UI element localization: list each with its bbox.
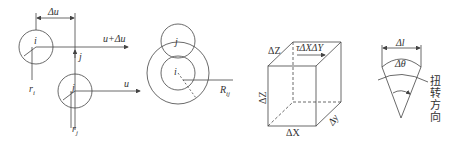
- particle-j-upper-label: j: [173, 36, 178, 47]
- diagram-canvas: Δu u+Δu u i j j ri rj j i Rij: [0, 0, 452, 146]
- radius-dashed: [178, 73, 196, 98]
- shear-stress-label: τΔXΔY: [296, 42, 324, 53]
- inner-angle-arc: [393, 91, 410, 94]
- bottom-edge-label: ΔX: [286, 127, 300, 138]
- cube-hidden-edge: [268, 102, 293, 126]
- direction-char-1: 扭: [430, 74, 441, 88]
- r-i-label: ri: [29, 83, 35, 97]
- particle-i-center-label: i: [174, 66, 177, 77]
- depth-edge-label: Δy: [325, 112, 341, 128]
- shear-cube-labels: ΔZ τΔXΔY ΔZ ΔX Δy: [257, 42, 341, 138]
- particle-shear-labels: Δu u+Δu u i j j ri rj: [29, 6, 129, 137]
- radius-label: Rij: [219, 84, 230, 98]
- u-plus-delta-u-label: u+Δu: [103, 33, 126, 44]
- particle-j-upper-circle: [161, 24, 195, 58]
- particle-j-top-label: j: [77, 51, 82, 62]
- delta-u-label: Δu: [47, 6, 59, 17]
- particle-shear-figure: [19, 13, 140, 130]
- particle-i-radius: [24, 47, 36, 56]
- u-label: u: [124, 78, 129, 89]
- torsion-sector-figure: [378, 45, 428, 118]
- direction-char-4: 向: [430, 110, 441, 124]
- left-edge-label: ΔZ: [257, 91, 268, 104]
- angle-label: Δθ: [394, 58, 406, 69]
- arc-length-label: Δl: [395, 37, 405, 48]
- torsion-sector-labels: Δl Δθ 扭 转 方 向: [394, 37, 441, 124]
- cube-front-face: [268, 66, 316, 126]
- r-j-label: rj: [72, 123, 78, 137]
- top-edge-label: ΔZ: [268, 45, 281, 56]
- particle-i-label: i: [34, 35, 37, 46]
- direction-char-2: 转: [430, 86, 441, 100]
- particle-neighborhood-labels: j i Rij: [173, 36, 230, 98]
- direction-char-3: 方: [430, 98, 441, 112]
